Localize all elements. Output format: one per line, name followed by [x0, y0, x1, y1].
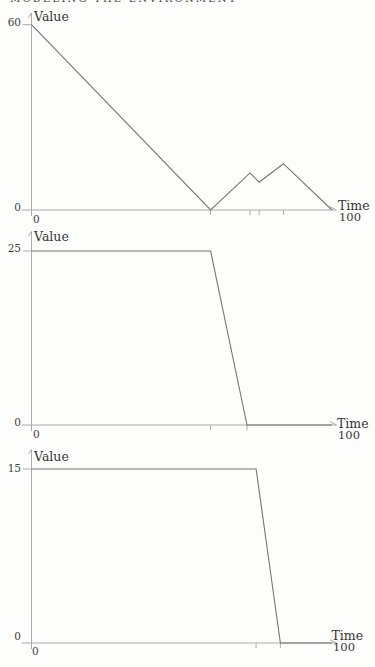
x-max-tick-label: 100 [339, 211, 361, 224]
x-zero-tick-label: 0 [33, 428, 40, 440]
y-max-tick-label: 60 [2, 16, 21, 28]
x-zero-tick-label: 0 [32, 645, 39, 657]
y-zero-tick-label: 0 [2, 201, 21, 213]
y-axis-title: Value [34, 230, 69, 244]
x-max-tick-label: 100 [333, 641, 355, 654]
y-axis-title: Value [34, 450, 69, 464]
y-zero-tick-label: 0 [2, 630, 21, 642]
x-zero-tick-label: 0 [33, 213, 40, 225]
x-max-tick-label: 100 [338, 429, 360, 442]
y-max-tick-label: 15 [2, 462, 21, 474]
charts-canvas [0, 0, 375, 667]
y-axis-title: Value [34, 10, 69, 24]
y-max-tick-label: 25 [2, 242, 21, 254]
y-zero-tick-label: 0 [2, 416, 21, 428]
